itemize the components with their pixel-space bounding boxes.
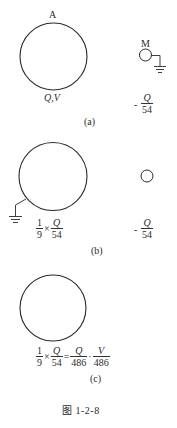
numerator: 1 — [36, 346, 43, 356]
big-charge-b: 19 × Q54 — [36, 218, 63, 239]
sublabel-c: (c) — [90, 374, 101, 384]
denominator: 9 — [36, 356, 43, 367]
ground-wire-m — [152, 56, 161, 67]
denominator: 9 — [36, 228, 43, 239]
times-operator: × — [43, 223, 51, 234]
numerator: Q — [142, 93, 151, 103]
ground-symbol-icon — [154, 67, 166, 73]
numerator: Q — [142, 218, 151, 228]
sublabel-b: (b) — [91, 246, 103, 256]
denominator: 54 — [141, 103, 153, 114]
small-charge-b: Q 54 — [141, 218, 153, 239]
equals-operator: = — [63, 351, 71, 362]
small-sphere-m — [140, 49, 152, 61]
figure-caption: 图 1-2-8 — [62, 402, 100, 417]
numerator: V — [97, 346, 105, 356]
denominator: 54 — [51, 228, 63, 239]
small-charge-a: Q 54 — [141, 93, 153, 114]
small-sphere-b — [141, 170, 153, 182]
big-charge-c: 19 × Q54 = Q486 · V486 — [36, 346, 110, 367]
sphere-c — [20, 275, 86, 341]
ground-symbol-icon — [9, 217, 22, 223]
ground-wire-b — [16, 199, 27, 217]
denominator: 486 — [70, 356, 87, 367]
sublabel-a: (a) — [84, 117, 95, 127]
denominator: 486 — [93, 356, 110, 367]
minus-sign: - — [134, 224, 137, 235]
denominator: 54 — [51, 356, 63, 367]
numerator: Q — [52, 218, 61, 228]
sphere-a-charge-potential: Q,V — [44, 93, 60, 103]
numerator: Q — [52, 346, 61, 356]
minus-sign: - — [134, 99, 137, 110]
denominator: 54 — [141, 228, 153, 239]
sphere-a-label: A — [49, 10, 56, 20]
sphere-a — [20, 23, 87, 90]
sphere-b — [19, 143, 87, 211]
numerator: Q — [74, 346, 83, 356]
numerator: 1 — [36, 218, 43, 228]
times-operator: × — [43, 351, 51, 362]
small-sphere-m-label: M — [141, 39, 150, 49]
